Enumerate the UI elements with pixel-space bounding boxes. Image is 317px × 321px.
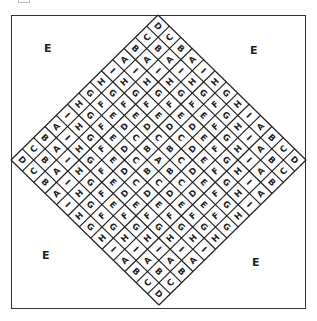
grid-cell-letter: G xyxy=(84,132,96,144)
grid-cell-letter: F xyxy=(119,99,130,110)
grid-cell-letter: E xyxy=(198,199,209,210)
grid-cell-letter: I xyxy=(63,133,72,142)
grid-cell-letter: G xyxy=(130,87,142,99)
grid-cell-letter: H xyxy=(141,76,153,88)
grid-cell-letter: I xyxy=(200,245,209,254)
grid-cell-letter: C xyxy=(130,177,141,188)
grid-cell-letter: E xyxy=(198,177,209,188)
grid-cell-letter: H xyxy=(96,232,108,244)
grid-cell-letter: D xyxy=(118,165,130,177)
grid-cell-letter: I xyxy=(154,66,163,75)
grid-cell-letter: F xyxy=(96,143,107,154)
grid-cell-letter: I xyxy=(244,111,253,120)
grid-cell-letter: D xyxy=(119,187,131,199)
grid-cell-letter: D xyxy=(118,121,130,133)
grid-cell-letter: A xyxy=(119,254,131,266)
grid-cell-letter: E xyxy=(198,154,209,165)
grid-cell-letter: B xyxy=(266,176,278,188)
grid-cell-letter: G xyxy=(221,221,233,233)
grid-cell-letter: D xyxy=(152,20,164,32)
grid-cell-letter: B xyxy=(39,132,51,144)
grid-cell-letter: H xyxy=(187,232,199,244)
grid-cell-letter: F xyxy=(210,165,221,176)
grid-cell-letter: D xyxy=(164,121,176,133)
grid-cell-letter: I xyxy=(245,155,254,164)
grid-cell-letter: F xyxy=(210,188,221,199)
grid-cell-letter: B xyxy=(266,154,278,166)
grid-cell-letter: C xyxy=(165,277,176,288)
grid-cell-letter: G xyxy=(221,154,233,166)
grid-cell-letter: E xyxy=(198,110,209,121)
grid-cell-letter: G xyxy=(198,87,210,99)
grid-cell-letter: I xyxy=(63,155,72,164)
grid-cell-letter: I xyxy=(245,178,254,187)
grid-cell-letter: F xyxy=(96,99,107,110)
grid-cell-letter: H xyxy=(232,210,244,222)
grid-cell-letter: A xyxy=(187,254,199,266)
grid-cell-letter: I xyxy=(63,200,72,209)
grid-cell-letter: G xyxy=(220,132,232,144)
grid-cell-letter: E xyxy=(107,132,118,143)
grid-cell-letter: G xyxy=(220,87,232,99)
grid-cell-letter: H xyxy=(164,76,176,88)
grid-cell-letter: D xyxy=(164,187,176,199)
grid-cell-letter: D xyxy=(289,154,301,166)
grid-cell-letter: E xyxy=(153,199,164,210)
grid-cell-letter: B xyxy=(39,154,51,166)
grid-cell-letter: G xyxy=(85,199,97,211)
grid-cell-letter: D xyxy=(187,165,199,177)
grid-cell-letter: A xyxy=(50,120,62,132)
grid-cell-letter: H xyxy=(232,98,244,110)
grid-cell-letter: C xyxy=(175,132,186,143)
grid-cell-letter: G xyxy=(84,154,96,166)
grid-cell-letter: I xyxy=(177,245,186,254)
grid-cell-letter: I xyxy=(245,133,254,142)
grid-cell-letter: E xyxy=(108,199,119,210)
grid-cell-letter: I xyxy=(63,111,72,120)
grid-cell-letter: H xyxy=(186,76,198,88)
grid-cell-letter: H xyxy=(95,76,107,88)
grid-cell-letter: F xyxy=(119,210,130,221)
grid-cell-letter: A xyxy=(255,120,267,132)
grid-cell-letter: G xyxy=(107,221,119,233)
grid-cell-letter: D xyxy=(118,143,130,155)
grid-cell-letter: F xyxy=(164,210,175,221)
grid-cell-letter: I xyxy=(199,66,208,75)
grid-cell-letter: A xyxy=(141,53,153,65)
grid-cell-letter: G xyxy=(84,87,96,99)
grid-cell-letter: B xyxy=(164,165,176,177)
grid-cell-letter: F xyxy=(96,188,107,199)
grid-cell-letter: F xyxy=(210,143,221,154)
grid-cell-letter: C xyxy=(176,177,187,188)
grid-cell-letter: D xyxy=(141,187,153,199)
grid-cell-letter: F xyxy=(96,165,107,176)
grid-cell-letter: H xyxy=(73,120,85,132)
grid-cell-letter: G xyxy=(220,109,232,121)
grid-cell-letter: A xyxy=(164,53,176,65)
grid-cell-letter: B xyxy=(176,266,188,278)
grid-cell-letter: E xyxy=(130,110,141,121)
grid-cell-letter: C xyxy=(153,132,164,143)
grid-cell-letter: I xyxy=(108,66,117,75)
grid-cell-letter: D xyxy=(153,288,165,300)
grid-cell-letter: E xyxy=(153,110,164,121)
grid-cell-letter: C xyxy=(278,143,289,154)
grid-cell-letter: F xyxy=(187,99,198,110)
grid-cell-letter: A xyxy=(255,187,267,199)
grid-cell-letter: H xyxy=(73,210,85,222)
grid-cell-letter: H xyxy=(73,98,85,110)
grid-cell-letter: E xyxy=(107,110,118,121)
grid-cell-letter: G xyxy=(175,221,187,233)
grid-cell-letter: F xyxy=(96,121,107,132)
grid-cell-letter: B xyxy=(141,165,153,177)
grid-cell-letter: A xyxy=(118,53,130,65)
grid-cell-letter: H xyxy=(209,76,221,88)
diamond-letter-grid: DCBAIHGHIABCDCBAIHGFGHIABCBAIHGFEFGHIABA… xyxy=(0,0,317,321)
grid-cell-letter: C xyxy=(153,177,164,188)
grid-cell-letter: E xyxy=(176,199,187,210)
grid-cell-letter: E xyxy=(130,199,141,210)
grid-cell-letter: C xyxy=(28,165,39,176)
grid-cell-letter: E xyxy=(108,154,119,165)
grid-cell-letter: D xyxy=(141,121,153,133)
grid-cell-letter: G xyxy=(175,87,187,99)
